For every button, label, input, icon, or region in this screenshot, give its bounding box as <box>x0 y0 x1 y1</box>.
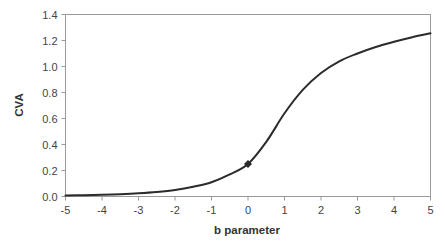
x-tick-label: 3 <box>354 204 360 216</box>
x-axis-title: b parameter <box>214 224 280 236</box>
x-tick-label: 1 <box>281 204 287 216</box>
x-tick-label: -4 <box>97 204 107 216</box>
x-axis: -5-4-3-2-1012345 <box>61 197 434 216</box>
y-tick-label: 0.6 <box>42 113 57 125</box>
x-tick-label: 2 <box>318 204 324 216</box>
y-axis-title: CVA <box>13 93 25 116</box>
cva-curve <box>66 33 431 195</box>
plot-frame <box>66 15 431 197</box>
x-tick-label: 0 <box>245 204 251 216</box>
caption-fragment <box>12 240 412 246</box>
plot-area <box>66 15 431 197</box>
x-tick-label: -5 <box>61 204 71 216</box>
x-tick-label: -3 <box>134 204 144 216</box>
x-tick-label: 5 <box>427 204 433 216</box>
cva-chart: 0.00.20.40.60.81.01.21.4 -5-4-3-2-101234… <box>0 0 445 247</box>
x-tick-label: -1 <box>207 204 217 216</box>
y-tick-label: 0.0 <box>42 191 57 203</box>
y-tick-label: 0.8 <box>42 87 57 99</box>
x-tick-label: 4 <box>391 204 397 216</box>
y-tick-label: 1.4 <box>42 9 57 21</box>
x-tick-label: -2 <box>170 204 180 216</box>
y-tick-label: 0.4 <box>42 139 57 151</box>
y-axis: 0.00.20.40.60.81.01.21.4 <box>42 9 65 203</box>
y-tick-label: 1.0 <box>42 61 57 73</box>
y-tick-label: 1.2 <box>42 35 57 47</box>
y-tick-label: 0.2 <box>42 165 57 177</box>
